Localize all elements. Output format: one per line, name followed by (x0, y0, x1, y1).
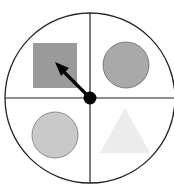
spinner-diagram (0, 0, 174, 194)
upper-right-circle-shape (103, 42, 149, 88)
spinner-hub (84, 92, 97, 105)
square-shape (33, 43, 77, 88)
lower-left-circle-shape (32, 112, 78, 158)
